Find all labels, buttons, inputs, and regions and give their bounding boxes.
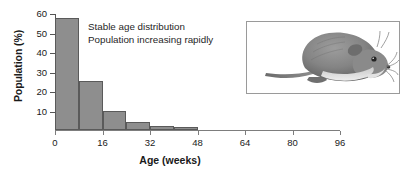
figure-histogram-age-distribution: Population (%) 10 20 30 40 50 60	[0, 0, 420, 179]
x-tick-64	[245, 131, 246, 135]
x-tick-32	[150, 131, 151, 135]
annotation-line-2: Population increasing rapidly	[88, 34, 213, 47]
x-tick-label-16: 16	[97, 137, 108, 149]
y-tick-label-10: 10	[36, 105, 47, 118]
y-tick-label-50: 50	[36, 27, 47, 40]
x-tick-16	[103, 131, 104, 135]
annotation-line-1: Stable age distribution	[88, 21, 213, 34]
bar-32-40	[150, 126, 174, 130]
chart-annotation: Stable age distribution Population incre…	[88, 21, 213, 46]
x-tick-label-96: 96	[335, 137, 346, 149]
x-axis-title: Age (weeks)	[120, 154, 220, 166]
x-tick-80	[293, 131, 294, 135]
vole-tail	[265, 71, 313, 78]
inset-image-box	[246, 21, 400, 94]
bar-40-48	[174, 127, 198, 130]
x-tick-label-32: 32	[145, 137, 156, 149]
bar-24-32	[126, 122, 150, 131]
x-tick-label-48: 48	[192, 137, 203, 149]
x-tick-label-0: 0	[52, 137, 57, 149]
x-tick-48	[198, 131, 199, 135]
y-tick-label-60: 60	[36, 7, 47, 20]
vole-eye-highlight	[372, 57, 374, 59]
vole-eye	[371, 56, 376, 61]
x-tick-label-80: 80	[287, 137, 298, 149]
vole-illustration-icon	[247, 22, 399, 93]
y-tick-label-20: 20	[36, 85, 47, 98]
bar-8-16	[79, 81, 103, 131]
bar-0-8	[55, 18, 79, 130]
x-tick-label-64: 64	[240, 137, 251, 149]
x-tick-96	[340, 131, 341, 135]
y-tick-label-40: 40	[36, 46, 47, 59]
x-tick-0	[55, 131, 56, 135]
y-tick-60: 60	[50, 14, 55, 15]
bar-16-24	[103, 111, 127, 131]
y-tick-label-30: 30	[36, 66, 47, 79]
y-axis-title: Population (%)	[12, 11, 24, 121]
